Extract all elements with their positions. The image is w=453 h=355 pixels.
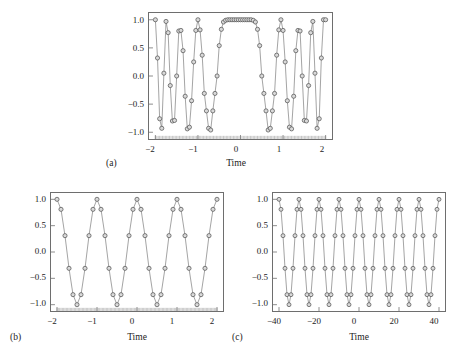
panel-a-xtick-1: −2	[138, 145, 162, 154]
panel-c-ytick-3: 0.0	[234, 247, 268, 256]
panel-b-ytick-3: 0.0	[12, 247, 46, 256]
panel-b-xtick-2: −1	[80, 317, 104, 326]
panel-a-xaxis-title: Time	[194, 158, 278, 168]
panel-c-xtick-3: 0	[340, 317, 368, 326]
panel-b-canvas	[51, 193, 223, 311]
panel-b-xaxis-title: Time	[95, 332, 179, 342]
panel-b-ytick-5: −1.0	[12, 299, 46, 308]
panel-b-ytick-4: −0.5	[12, 273, 46, 282]
panel-a-xtick-2: −1	[181, 145, 205, 154]
panel-b-plot-frame	[50, 192, 224, 312]
panel-c-ytick-1: 1.0	[234, 195, 268, 204]
panel-b-xtick-5: 2	[200, 317, 224, 326]
panel-a-ytick-1: 1.0	[110, 16, 144, 25]
panel-a-ytick-5: −1.0	[110, 128, 144, 137]
panel-a-xtick-3: 0	[224, 145, 248, 154]
panel-c-xtick-5: 40	[420, 317, 448, 326]
panel-c-ytick-4: −0.5	[234, 273, 268, 282]
panel-a-ytick-4: −0.5	[110, 100, 144, 109]
panel-b-ytick-2: 0.5	[12, 221, 46, 230]
panel-c-xtick-1: −40	[260, 317, 288, 326]
panel-b-ytick-1: 1.0	[12, 195, 46, 204]
panel-a-ytick-3: 0.0	[110, 72, 144, 81]
panel-a-canvas	[149, 13, 332, 139]
panel-a-caption: (a)	[106, 158, 117, 168]
panel-b-caption: (b)	[10, 332, 21, 342]
panel-b: 1.0 0.5 0.0 −0.5 −1.0 −2 −1 0 1 2 Time (…	[6, 186, 234, 354]
panel-c-ytick-2: 0.5	[234, 221, 268, 230]
panel-c-xtick-2: −20	[300, 317, 328, 326]
panel-a-xtick-5: 2	[310, 145, 334, 154]
panel-a: 1.0 0.5 0.0 −0.5 −1.0 −2 −1 0 1 2 Time (…	[100, 4, 345, 179]
panel-c-caption: (c)	[232, 332, 243, 342]
panel-b-xtick-3: 0	[120, 317, 144, 326]
panel-b-xtick-1: −2	[40, 317, 64, 326]
panel-a-plot-frame	[148, 12, 333, 140]
panel-b-xtick-4: 1	[160, 317, 184, 326]
panel-c-xtick-4: 20	[380, 317, 408, 326]
panel-c-xaxis-title: Time	[317, 332, 401, 342]
panel-a-xtick-4: 1	[267, 145, 291, 154]
figure-root: 1.0 0.5 0.0 −0.5 −1.0 −2 −1 0 1 2 Time (…	[0, 0, 453, 355]
panel-c: 1.0 0.5 0.0 −0.5 −1.0 −40 −20 0 20 40 Ti…	[228, 186, 453, 354]
panel-c-ytick-5: −1.0	[234, 299, 268, 308]
panel-c-plot-frame	[272, 192, 446, 312]
panel-a-ytick-2: 0.5	[110, 44, 144, 53]
panel-c-canvas	[273, 193, 445, 311]
